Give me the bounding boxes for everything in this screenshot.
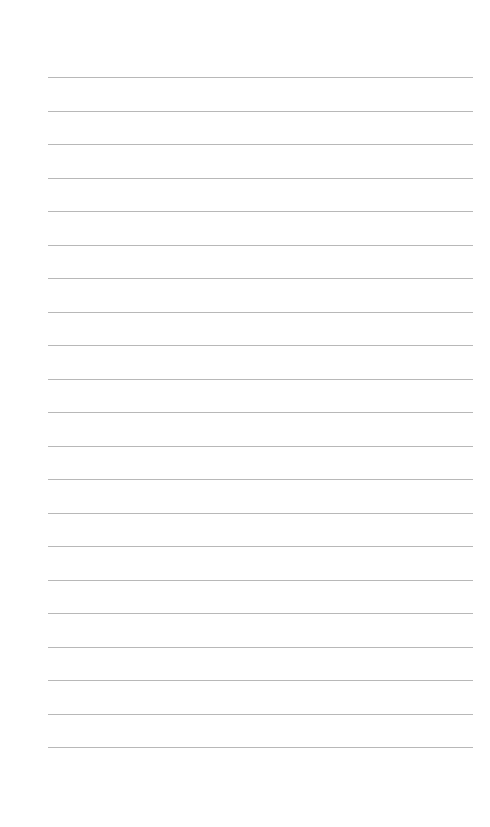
ruled-line — [48, 245, 473, 246]
ruled-line — [48, 747, 473, 748]
ruled-line — [48, 647, 473, 648]
ruled-line — [48, 680, 473, 681]
ruled-line — [48, 714, 473, 715]
ruled-line — [48, 613, 473, 614]
ruled-line — [48, 77, 473, 78]
ruled-line — [48, 178, 473, 179]
ruled-line — [48, 211, 473, 212]
ruled-line — [48, 345, 473, 346]
ruled-line — [48, 412, 473, 413]
ruled-line — [48, 580, 473, 581]
ruled-line — [48, 379, 473, 380]
ruled-line — [48, 312, 473, 313]
ruled-line — [48, 479, 473, 480]
ruled-line — [48, 111, 473, 112]
ruled-line — [48, 446, 473, 447]
ruled-line — [48, 144, 473, 145]
ruled-line — [48, 546, 473, 547]
ruled-line — [48, 513, 473, 514]
ruled-line — [48, 278, 473, 279]
